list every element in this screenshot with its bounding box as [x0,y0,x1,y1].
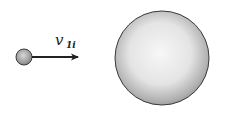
velocity-label-main: v [55,31,64,49]
velocity-label-subscript: 1i [66,40,76,50]
collision-diagram: v 1i [0,0,229,113]
large-ball [115,11,209,105]
velocity-label: v 1i [55,31,76,50]
small-ball [16,49,32,65]
